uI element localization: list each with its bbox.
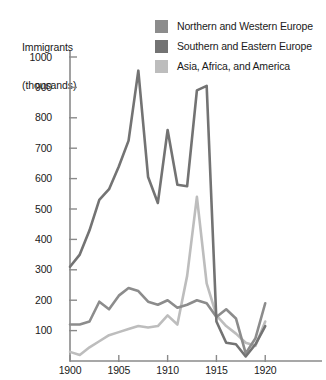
plot-area	[0, 0, 326, 380]
immigration-line-chart: Immigrants (thousands) Northern and West…	[0, 0, 326, 380]
series-line-2	[70, 197, 265, 355]
series-line-1	[70, 71, 265, 357]
